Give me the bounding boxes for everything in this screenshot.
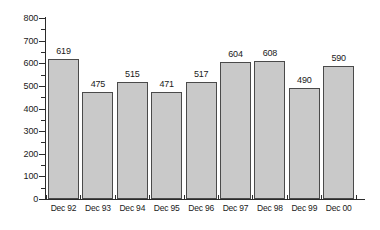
y-tick-label: 0 (12, 195, 38, 204)
x-axis-label: Dec 94 (113, 203, 152, 213)
x-tick (46, 195, 47, 200)
x-axis-label: Dec 93 (78, 203, 117, 213)
y-tick-minor (41, 165, 46, 166)
y-tick-minor (41, 97, 46, 98)
bar (289, 88, 320, 199)
x-axis-label: Dec 92 (44, 203, 83, 213)
bar (151, 92, 182, 199)
y-tick-minor (41, 120, 46, 121)
bar-chart: 0100200300400500600700800 61947551547151… (0, 0, 380, 230)
y-tick-minor (41, 29, 46, 30)
y-tick-label: 800 (12, 14, 38, 23)
bar (254, 61, 285, 199)
x-tick (356, 195, 357, 200)
bar-value-label: 475 (76, 80, 119, 89)
bar-value-label: 471 (145, 80, 188, 89)
bar-value-label: 619 (42, 47, 85, 56)
y-tick-label: 200 (12, 150, 38, 159)
x-axis-label: Dec 97 (216, 203, 255, 213)
bar (117, 82, 148, 199)
y-tick-major (39, 199, 46, 200)
x-tick (149, 195, 150, 200)
y-tick-major (39, 154, 46, 155)
y-tick-minor (41, 142, 46, 143)
y-tick-major (39, 109, 46, 110)
x-axis-label: Dec 98 (250, 203, 289, 213)
bar (82, 92, 113, 199)
x-axis-label: Dec 95 (147, 203, 186, 213)
y-tick-major (39, 131, 46, 132)
bar (323, 66, 354, 199)
y-tick-label: 500 (12, 82, 38, 91)
y-tick-label: 700 (12, 37, 38, 46)
bar (48, 59, 79, 199)
x-axis-line (45, 199, 365, 200)
y-tick-major (39, 41, 46, 42)
y-tick-major (39, 86, 46, 87)
y-tick-major (39, 63, 46, 64)
x-tick (80, 195, 81, 200)
y-tick-minor (41, 75, 46, 76)
x-axis-label: Dec 99 (285, 203, 324, 213)
y-tick-major (39, 18, 46, 19)
bar-value-label: 608 (248, 49, 291, 58)
y-tick-label: 400 (12, 105, 38, 114)
y-tick-major (39, 176, 46, 177)
x-axis-label: Dec 96 (182, 203, 221, 213)
bar-value-label: 490 (283, 76, 326, 85)
x-axis-label: Dec 00 (319, 203, 358, 213)
y-tick-label: 600 (12, 59, 38, 68)
x-tick (252, 195, 253, 200)
bar (186, 82, 217, 199)
y-tick-label: 300 (12, 127, 38, 136)
bar-value-label: 517 (180, 70, 223, 79)
bar-value-label: 590 (317, 54, 360, 63)
bar-value-label: 515 (111, 70, 154, 79)
x-tick (321, 195, 322, 200)
y-tick-minor (41, 188, 46, 189)
y-tick-label: 100 (12, 172, 38, 181)
x-tick (218, 195, 219, 200)
bar (220, 62, 251, 199)
